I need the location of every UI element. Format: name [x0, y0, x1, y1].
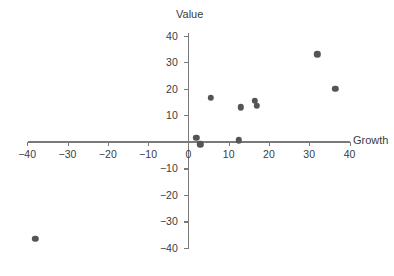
x-tick-label: 30 — [303, 148, 315, 160]
y-tick-mark — [184, 115, 188, 116]
x-tick-label: −30 — [58, 148, 76, 160]
y-tick-mark — [184, 195, 188, 196]
x-tick-mark — [68, 142, 69, 146]
y-tick-label: −20 — [160, 189, 178, 201]
y-tick-label: −30 — [160, 215, 178, 227]
data-point — [236, 137, 242, 143]
data-point — [207, 95, 213, 101]
y-tick-mark — [184, 89, 188, 90]
x-tick-label: −20 — [99, 148, 117, 160]
y-tick-mark — [184, 62, 188, 63]
y-tick-label: 30 — [166, 56, 178, 68]
y-tick-label: −40 — [160, 242, 178, 254]
x-tick-mark — [309, 142, 310, 146]
x-tick-mark — [148, 142, 149, 146]
data-point — [332, 85, 338, 91]
x-tick-mark — [27, 142, 28, 146]
y-tick-mark — [184, 221, 188, 222]
x-tick-label: 20 — [263, 148, 275, 160]
x-tick-mark — [269, 142, 270, 146]
data-point — [314, 51, 320, 57]
scatter-chart: Value Growth −40−30−20−10010203040 −40−3… — [0, 0, 394, 276]
data-point — [238, 104, 244, 110]
y-tick-label: −10 — [160, 162, 178, 174]
data-point — [197, 141, 203, 147]
y-tick-label: 40 — [166, 30, 178, 42]
x-tick-mark — [108, 142, 109, 146]
data-point — [254, 103, 260, 109]
x-tick-mark — [350, 142, 351, 146]
x-tick-label: −40 — [18, 148, 36, 160]
x-tick-label: 0 — [185, 148, 191, 160]
x-axis-title: Growth — [353, 134, 388, 146]
y-axis-line — [188, 33, 190, 249]
x-tick-label: 10 — [223, 148, 235, 160]
data-point — [32, 236, 38, 242]
y-tick-mark — [184, 36, 188, 37]
y-tick-label: 20 — [166, 83, 178, 95]
y-tick-mark — [184, 248, 188, 249]
y-axis-title: Value — [176, 8, 203, 20]
x-tick-mark — [229, 142, 230, 146]
x-tick-label: 40 — [344, 148, 356, 160]
x-tick-label: −10 — [139, 148, 157, 160]
y-tick-label: 10 — [166, 109, 178, 121]
y-tick-mark — [184, 168, 188, 169]
